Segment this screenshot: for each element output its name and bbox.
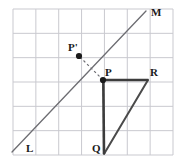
edge-PQ — [103, 80, 104, 154]
geometry-figure: M L P' P R Q — [0, 0, 179, 168]
label-P-prime: P' — [68, 41, 78, 53]
label-Q: Q — [92, 142, 101, 154]
label-R: R — [150, 66, 159, 78]
point-P-prime-dot — [76, 53, 82, 59]
label-P: P — [105, 66, 112, 78]
label-M: M — [151, 6, 162, 18]
label-L: L — [26, 142, 33, 154]
geometry-canvas: M L P' P R Q — [0, 0, 179, 168]
